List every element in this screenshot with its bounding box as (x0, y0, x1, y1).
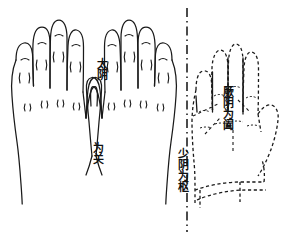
left-finger-index (16, 43, 34, 86)
left-finger-little (67, 30, 84, 92)
left-finger-middle (33, 27, 50, 88)
middle-finger-ring (138, 27, 155, 88)
right-hand-wrist-lower (197, 190, 266, 200)
right-finger-index (196, 71, 213, 110)
figure-canvas: 太阴 为关 少阴为枢 厥阴为阖 (0, 0, 286, 238)
label-taiyin: 太阴 (96, 58, 107, 80)
middle-hand-left-edge (102, 92, 105, 118)
middle-finger-little (155, 43, 173, 86)
right-hand-right-edge (258, 114, 261, 132)
left-finger-ring (50, 20, 67, 90)
hands-diagram (0, 0, 286, 238)
right-hand-dashed (192, 44, 278, 208)
middle-hand-outline (166, 60, 177, 204)
right-finger-little (243, 52, 259, 114)
right-hand-wrist-right (262, 160, 264, 182)
middle-base-knuckles (108, 100, 164, 111)
right-thumb-outline (258, 105, 278, 176)
left-base-knuckles (24, 100, 80, 111)
label-shaoyin-wei-shu: 少阴为枢 (177, 148, 188, 192)
label-weiguan: 为关 (92, 142, 103, 164)
right-hand-finger-separations (196, 58, 243, 114)
middle-finger-middle (121, 20, 138, 90)
left-hand-outline (12, 60, 23, 204)
left-hand-right-edge (83, 92, 86, 118)
right-hand-wrist (195, 182, 264, 190)
label-jueyin-wei-he: 厥阴为阖 (222, 86, 233, 130)
right-separation-4 (196, 96, 197, 112)
right-hand-left-contour (192, 90, 196, 204)
